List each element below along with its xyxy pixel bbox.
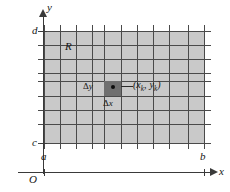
x-axis-line [18,172,212,173]
tick-mark-c [40,143,47,144]
gridline-vertical [204,25,205,149]
paren-close: ) [157,79,160,90]
region-label-R: R [65,41,72,52]
delta-x-variable: x [109,98,113,108]
tick-label-a: a [41,151,47,162]
point-separator: , [144,79,147,90]
tick-label-d: d [32,25,38,36]
arrow-up-icon [39,9,47,17]
x-axis-label: x [219,166,224,177]
delta-y-label: Δy [83,82,93,91]
tick-label-c: c [32,137,37,148]
filled-dot-icon [111,85,115,89]
calculus-region-partition-figure: y x O d c a b R Δy Δx (xk,yk) [0,0,230,192]
arrow-right-icon [210,168,218,176]
leader-line [121,86,133,87]
delta-x-label: Δx [103,99,113,108]
sample-point-label: (xk,yk) [133,80,161,93]
tick-mark-a [44,169,45,176]
tick-mark-d [40,31,47,32]
gridline-horizontal [38,143,211,144]
tick-label-b: b [200,151,206,162]
tick-mark-b [204,169,205,176]
origin-label: O [29,174,37,185]
y-axis-label: y [47,2,52,13]
delta-y-variable: y [89,81,93,91]
